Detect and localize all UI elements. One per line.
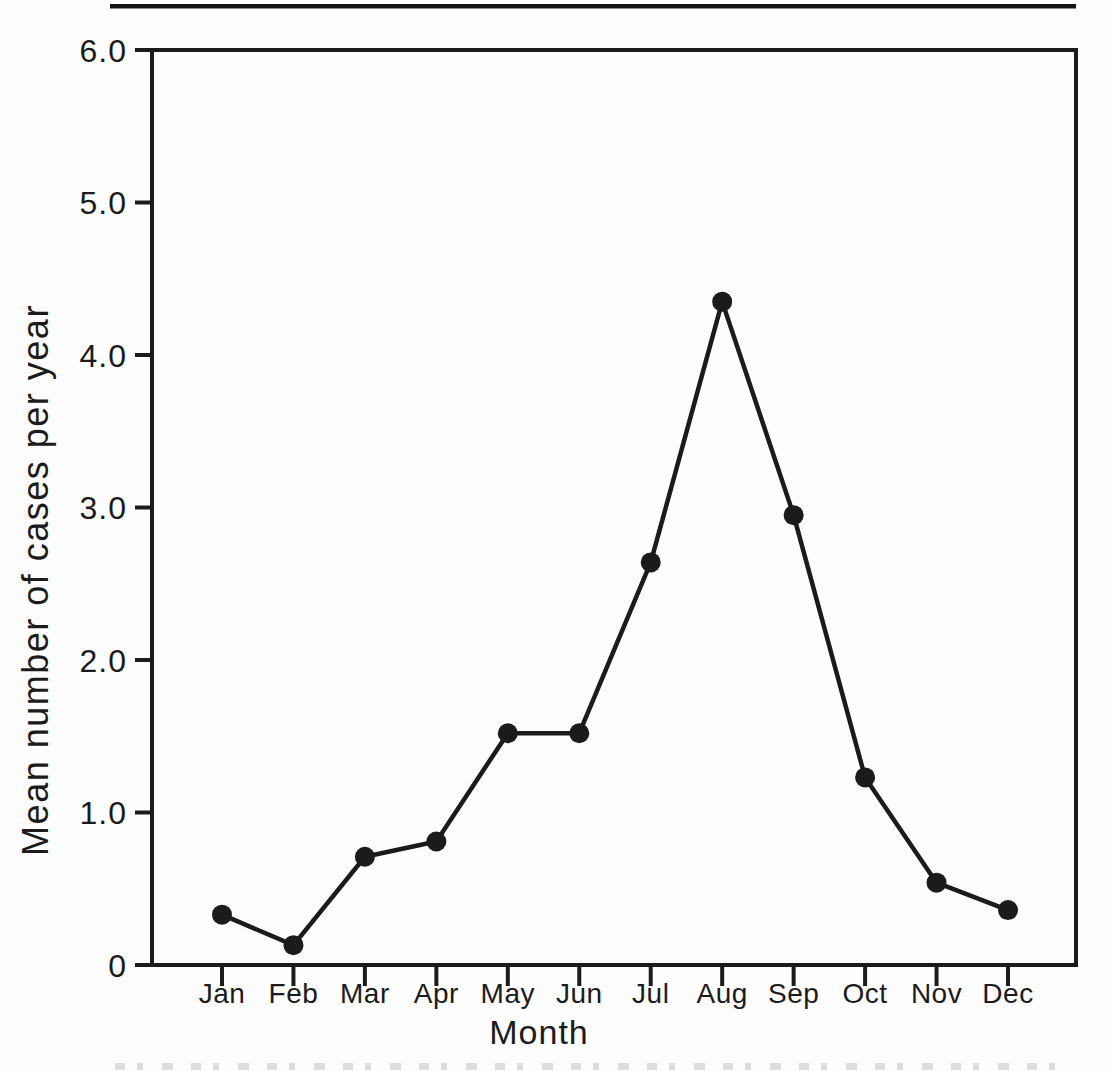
x-tick-label: Jun <box>556 978 603 1009</box>
data-point-nov <box>927 873 947 893</box>
x-tick-label: Nov <box>911 978 962 1009</box>
data-point-mar <box>355 847 375 867</box>
x-tick-label: Apr <box>414 978 459 1009</box>
x-tick-label: Oct <box>843 978 888 1009</box>
x-tick-label: Feb <box>269 978 319 1009</box>
data-point-jan <box>212 905 232 925</box>
plot-frame <box>152 50 1076 965</box>
data-point-aug <box>712 292 732 312</box>
x-axis-ticks: JanFebMarAprMayJunJulAugSepOctNovDec <box>199 965 1034 1009</box>
cropped-caption-remnant <box>115 1063 1060 1070</box>
y-tick-label: 0 <box>108 948 127 984</box>
data-point-jun <box>569 723 589 743</box>
x-tick-label: Aug <box>697 978 748 1009</box>
x-tick-label: Jan <box>199 978 246 1009</box>
data-point-sep <box>784 505 804 525</box>
data-point-dec <box>998 900 1018 920</box>
y-axis-ticks: 01.02.03.04.05.06.0 <box>80 33 153 984</box>
data-point-may <box>498 723 518 743</box>
data-point-oct <box>855 767 875 787</box>
x-tick-label: May <box>481 978 535 1009</box>
data-point-feb <box>283 935 303 955</box>
x-axis-title: Month <box>489 1013 589 1051</box>
x-tick-label: Sep <box>768 978 819 1009</box>
y-axis-title: Mean number of cases per year <box>15 304 56 856</box>
y-tick-label: 4.0 <box>80 338 127 374</box>
scanned-figure-page: 01.02.03.04.05.06.0 JanFebMarAprMayJunJu… <box>0 0 1113 1071</box>
y-tick-label: 5.0 <box>80 185 127 221</box>
data-series <box>212 292 1018 956</box>
x-tick-label: Jul <box>632 978 669 1009</box>
x-tick-label: Mar <box>340 978 390 1009</box>
data-point-apr <box>426 831 446 851</box>
series-line <box>222 302 1008 946</box>
page-top-rule <box>110 4 1076 9</box>
x-tick-label: Dec <box>982 978 1033 1009</box>
y-tick-label: 2.0 <box>80 643 127 679</box>
y-tick-label: 3.0 <box>80 490 127 526</box>
y-tick-label: 6.0 <box>80 33 127 69</box>
y-tick-label: 1.0 <box>80 795 127 831</box>
data-point-jul <box>641 552 661 572</box>
line-chart: 01.02.03.04.05.06.0 JanFebMarAprMayJunJu… <box>0 0 1113 1071</box>
